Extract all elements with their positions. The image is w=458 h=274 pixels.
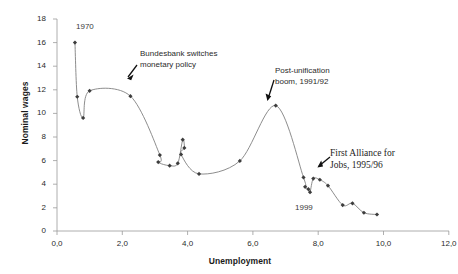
data-series-path xyxy=(75,43,377,215)
bundesbank-arrowhead xyxy=(127,74,134,80)
annotation-bundesbank: Bundesbank switches monetary policy xyxy=(140,49,217,70)
data-point xyxy=(350,201,354,205)
data-point xyxy=(75,95,79,99)
x-tick-12: 12,0 xyxy=(432,239,458,248)
data-point xyxy=(158,153,162,157)
data-point xyxy=(73,40,77,44)
annotation-first-alliance-line2: Jobs, 1995/96 xyxy=(330,160,395,172)
annotation-bundesbank-line1: Bundesbank switches xyxy=(140,49,217,60)
axis-lines xyxy=(57,19,449,231)
data-point xyxy=(311,176,315,180)
y-tick-0: 0 xyxy=(20,226,46,235)
data-point-markers xyxy=(73,40,379,216)
label-1970: 1970 xyxy=(76,22,94,31)
x-tick-8: 8,0 xyxy=(301,239,335,248)
x-tick-2: 2,0 xyxy=(105,239,139,248)
annotation-bundesbank-line2: monetary policy xyxy=(140,60,217,71)
annotation-post-unification-line1: Post-unification xyxy=(275,66,330,77)
x-tick-6: 6,0 xyxy=(236,239,270,248)
nominal-wages-unemployment-chart: 18 16 14 12 10 8 6 4 2 0 0,0 2,0 4,0 6,0… xyxy=(0,0,458,274)
y-tick-marks xyxy=(53,19,57,231)
label-1999: 1999 xyxy=(295,203,313,212)
x-tick-0: 0,0 xyxy=(40,239,74,248)
annotation-post-unification-line2: boom, 1991/92 xyxy=(275,77,330,88)
y-tick-4: 4 xyxy=(20,179,46,188)
data-point xyxy=(197,172,201,176)
data-point xyxy=(301,175,305,179)
annotation-post-unification: Post-unification boom, 1991/92 xyxy=(275,66,330,87)
y-tick-18: 18 xyxy=(20,14,46,23)
data-point xyxy=(375,212,379,216)
plot-area xyxy=(0,0,458,274)
boom-arrowhead xyxy=(266,93,272,101)
y-tick-2: 2 xyxy=(20,203,46,212)
annotation-first-alliance-line1: First Alliance for xyxy=(330,148,395,160)
x-tick-10: 10,0 xyxy=(367,239,401,248)
y-tick-16: 16 xyxy=(20,38,46,47)
annotation-first-alliance: First Alliance for Jobs, 1995/96 xyxy=(330,148,395,171)
x-axis-title: Unemployment xyxy=(175,256,305,266)
data-point xyxy=(168,164,172,168)
x-tick-marks xyxy=(57,231,449,235)
x-tick-4: 4,0 xyxy=(171,239,205,248)
data-point xyxy=(318,178,322,182)
data-point xyxy=(274,103,278,107)
y-axis-title: Nominal wages xyxy=(20,68,30,158)
alliance-arrowhead xyxy=(317,161,323,168)
data-point xyxy=(362,211,366,215)
